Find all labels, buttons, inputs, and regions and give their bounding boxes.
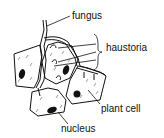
haustoria-label: haustoria [106, 43, 147, 53]
fungus-leader [47, 16, 70, 26]
nucleus-label: nucleus [61, 124, 95, 134]
fungus-haustoria-diagram: fungus haustoria plant cell nucleus [0, 0, 164, 138]
fungus-label: fungus [72, 11, 102, 21]
nucleus-right [74, 91, 81, 98]
plant-cell-label: plant cell [101, 104, 140, 114]
